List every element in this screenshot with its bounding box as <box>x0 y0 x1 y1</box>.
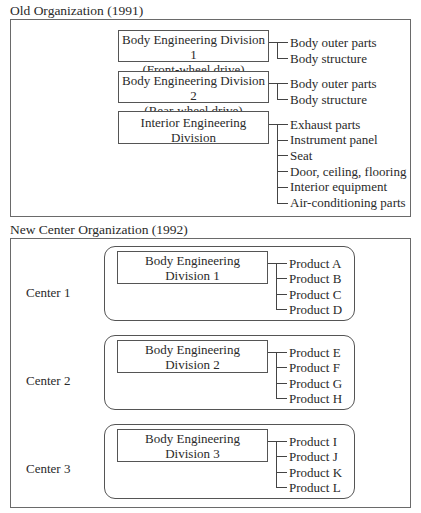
center-2-product: Product H <box>289 391 342 406</box>
center-1-product: Product C <box>289 287 341 302</box>
connector <box>276 263 277 309</box>
connector <box>268 263 287 264</box>
center-1-product: Product D <box>289 302 342 317</box>
old-interior-division-name: Interior Engineering <box>119 115 268 130</box>
old-div1-item: Body structure <box>290 51 367 66</box>
connector <box>277 171 288 172</box>
connector <box>268 352 287 353</box>
connector <box>276 472 287 473</box>
center-2-product: Product E <box>289 345 341 360</box>
center-2-product: Product F <box>289 360 340 375</box>
center-3-product: Product L <box>289 480 341 495</box>
old-div2-item: Body structure <box>290 92 367 107</box>
connector <box>277 124 278 203</box>
center-2-division-name: Body Engineering <box>118 342 267 357</box>
center-1-division-number: Division 1 <box>118 268 267 283</box>
center-1-division-name: Body Engineering <box>118 253 267 268</box>
center-3-division-number: Division 3 <box>118 446 267 461</box>
old-div2-item: Body outer parts <box>290 76 377 91</box>
center-3-division-name: Body Engineering <box>118 431 267 446</box>
connector <box>276 309 287 310</box>
old-division-1-box: Body Engineering Division 1 (Front-wheel… <box>118 30 269 62</box>
connector <box>276 383 287 384</box>
connector <box>276 398 287 399</box>
center-1-label: Center 1 <box>26 285 70 300</box>
old-interior-item: Instrument panel <box>290 132 378 147</box>
connector <box>277 99 288 100</box>
connector <box>277 203 288 204</box>
old-interior-item: Interior equipment <box>290 179 387 194</box>
center-3-division-box: Body Engineering Division 3 <box>117 429 268 462</box>
old-interior-division-box: Interior Engineering Division <box>118 111 269 144</box>
connector <box>277 58 288 59</box>
old-interior-item: Seat <box>290 148 312 163</box>
connector <box>277 83 278 99</box>
center-3-product: Product J <box>289 449 338 464</box>
connector <box>269 83 288 84</box>
old-div1-item: Body outer parts <box>290 35 377 50</box>
center-1-division-box: Body Engineering Division 1 <box>117 251 268 284</box>
connector <box>276 456 287 457</box>
connector <box>277 187 288 188</box>
center-1-product: Product B <box>289 271 341 286</box>
old-division-2-name: Body Engineering Division 2 <box>119 73 268 103</box>
old-division-2-box: Body Engineering Division 2 (Rear-wheel … <box>118 71 269 103</box>
old-division-1-name: Body Engineering Division 1 <box>119 32 268 62</box>
connector <box>268 441 287 442</box>
connector <box>277 155 288 156</box>
old-organization-title: Old Organization (1991) <box>10 3 143 19</box>
old-interior-item: Exhaust parts <box>290 117 360 132</box>
old-interior-item: Door, ceiling, flooring <box>290 164 406 179</box>
connector <box>276 294 287 295</box>
center-3-product: Product K <box>289 465 342 480</box>
new-organization-title: New Center Organization (1992) <box>10 222 188 238</box>
center-3-label: Center 3 <box>26 461 70 476</box>
old-interior-item: Air-conditioning parts <box>290 195 406 210</box>
connector <box>276 352 277 398</box>
center-2-division-box: Body Engineering Division 2 <box>117 340 268 373</box>
center-2-product: Product G <box>289 376 342 391</box>
connector <box>269 42 288 43</box>
center-1-product: Product A <box>289 256 341 271</box>
old-interior-division-name-2: Division <box>119 130 268 145</box>
connector <box>276 278 287 279</box>
center-2-label: Center 2 <box>26 373 70 388</box>
connector <box>276 367 287 368</box>
connector <box>269 124 288 125</box>
center-3-product: Product I <box>289 434 337 449</box>
connector <box>276 441 277 487</box>
connector <box>277 42 278 58</box>
connector <box>277 140 288 141</box>
connector <box>276 487 287 488</box>
center-2-division-number: Division 2 <box>118 357 267 372</box>
